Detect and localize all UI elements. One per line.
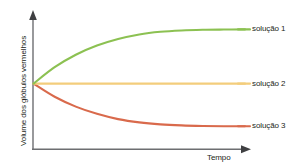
y-axis-arrowhead — [29, 10, 37, 20]
y-axis-title: Volume dos glóbulos vermelhos — [18, 6, 29, 146]
legend-label-solucao-2: solução 2 — [252, 79, 285, 89]
axes-group — [29, 10, 251, 153]
chart-container: Volume dos glóbulos vermelhos Tempo solu… — [0, 0, 304, 168]
legend-label-solucao-3: solução 3 — [252, 121, 285, 131]
x-axis-arrowhead — [241, 145, 251, 153]
x-axis-title: Tempo — [207, 153, 231, 162]
legend-label-solucao-1: solução 1 — [252, 24, 285, 34]
series-line-solucao-1 — [34, 29, 246, 83]
series-line-solucao-3 — [34, 84, 246, 127]
